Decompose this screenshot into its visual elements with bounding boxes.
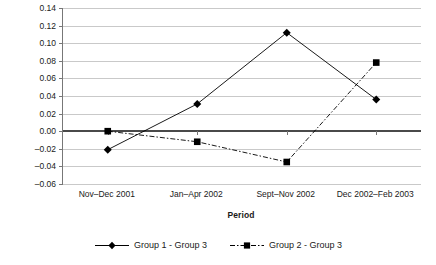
data-point-marker: [372, 96, 380, 104]
y-tick-label: 0.02: [39, 109, 56, 118]
data-point-marker: [194, 138, 201, 145]
data-point-marker: [373, 59, 380, 66]
y-tick-label: 0.00: [39, 127, 56, 136]
y-tick-label: 0.12: [39, 21, 56, 30]
x-tick-label: Dec 2002–Feb 2003: [337, 190, 414, 199]
y-tick-label: –0.04: [35, 162, 56, 171]
legend-label: Group 2 - Group 3: [269, 240, 342, 250]
data-point-marker: [283, 159, 290, 166]
x-tick-label: Sept–Nov 2002: [256, 190, 315, 199]
legend-label: Group 1 - Group 3: [134, 240, 207, 250]
data-point-marker: [104, 128, 111, 135]
y-tick-label: –0.06: [35, 180, 56, 189]
data-point-marker: [104, 146, 112, 154]
legend-swatch-square: [229, 240, 265, 251]
legend-entry-1[interactable]: Group 1 - Group 3: [94, 240, 207, 251]
series-line-1: [108, 33, 377, 150]
x-tick-label: Jan–Apr 2002: [170, 190, 223, 199]
legend-entry-2[interactable]: Group 2 - Group 3: [229, 240, 342, 251]
y-tick-label: –0.02: [35, 145, 56, 154]
y-tick-label: 0.14: [39, 4, 56, 13]
series-line-2: [108, 63, 377, 162]
plot-area: [62, 8, 421, 184]
legend-swatch-diamond: [94, 240, 130, 251]
y-tick-label: 0.08: [39, 57, 56, 66]
chart-legend: Group 1 - Group 3Group 2 - Group 3: [0, 237, 436, 253]
y-tick-label: 0.06: [39, 74, 56, 83]
x-axis-title: Period: [62, 210, 420, 220]
series-layer: [63, 8, 421, 184]
x-axis-tick-labels: Nov–Dec 2001Jan–Apr 2002Sept–Nov 2002Dec…: [62, 190, 420, 204]
y-tick-label: 0.10: [39, 39, 56, 48]
gridline: [63, 184, 421, 185]
y-tick-label: 0.04: [39, 92, 56, 101]
school-participation-rate-chart: School Participation Rate 0.140.120.100.…: [0, 0, 436, 265]
y-axis-tick-labels: 0.140.120.100.080.060.040.020.00–0.02–0.…: [24, 8, 60, 184]
y-tick-mark: [59, 184, 63, 185]
x-tick-label: Nov–Dec 2001: [79, 190, 135, 199]
